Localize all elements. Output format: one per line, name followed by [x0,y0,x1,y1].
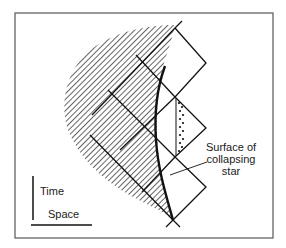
light-ray-top-extension [175,21,182,28]
surface-label-line-3: star [200,165,262,177]
space-axis-label: Space [48,208,79,220]
star-interior-hatched-region [64,25,175,218]
light-cone-zigzag [173,28,206,220]
collapsing-star-spacetime-diagram [0,0,286,248]
light-ray-bottom-extension-right [173,220,180,227]
time-axis-label: Time [40,185,64,197]
surface-label-line-2: collapsing [200,153,262,165]
surface-label-line-1: Surface of [200,141,262,153]
surface-label: Surface of collapsing star [200,141,262,177]
trapped-region-dots [178,102,184,152]
light-ray-bottom-extension-left [166,220,173,227]
